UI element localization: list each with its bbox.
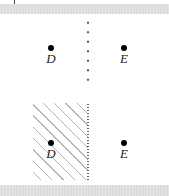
dotted-boundary-line	[87, 18, 89, 84]
point-d-label: D	[44, 52, 58, 65]
point-e-label: E	[117, 52, 131, 65]
top-diagram-panel: D E	[0, 14, 169, 98]
dotted-boundary-line	[87, 103, 89, 180]
top-separator-band	[0, 4, 169, 14]
bottom-diagram-panel: D E	[0, 98, 169, 185]
point-d-label: D	[44, 147, 58, 160]
bottom-separator-band	[0, 185, 169, 196]
shaded-half-plane	[33, 103, 88, 180]
point-e-label: E	[117, 147, 131, 160]
